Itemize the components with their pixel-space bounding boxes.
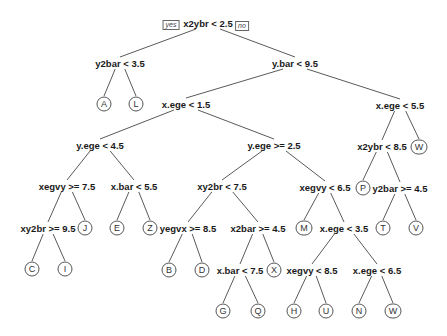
leaf-node: P: [356, 181, 371, 196]
split-node: yegvx >= 8.5: [160, 223, 217, 234]
split-node: y.ege >= 2.5: [247, 140, 300, 151]
tree-edge: [48, 192, 61, 222]
split-node: xy2br < 7.5: [197, 181, 246, 192]
tree-edge: [383, 194, 395, 220]
tree-edge: [363, 152, 376, 180]
leaf-node: V: [409, 221, 424, 236]
tree-edge: [382, 276, 393, 303]
tree-edge: [125, 69, 136, 96]
tree-edge: [331, 193, 344, 222]
split-node: xegvy < 8.5: [287, 265, 338, 276]
leaf-node: I: [58, 262, 73, 277]
split-node: x2ybr < 8.5: [357, 141, 406, 152]
split-node: y.bar < 9.5: [272, 58, 318, 69]
tree-edge: [286, 151, 325, 181]
tree-edge: [117, 192, 129, 220]
split-node: y2bar < 3.5: [95, 58, 144, 69]
no-branch-label: no: [235, 21, 249, 31]
tree-edge: [67, 151, 90, 180]
leaf-node: G: [216, 304, 231, 319]
tree-edge: [32, 234, 43, 261]
leaf-node: E: [110, 221, 125, 236]
split-node: x.ege < 1.5: [162, 99, 210, 110]
tree-edge: [169, 234, 182, 262]
tree-edge: [192, 234, 202, 262]
tree-edge: [104, 69, 115, 96]
split-node: xegvy < 6.5: [300, 182, 351, 193]
tree-edge: [220, 29, 295, 57]
leaf-node: M: [296, 221, 313, 236]
leaf-node: N: [352, 304, 367, 319]
leaf-node: T: [376, 221, 391, 236]
tree-edge: [188, 192, 212, 222]
leaf-node: J: [78, 221, 93, 236]
tree-edge: [263, 234, 274, 262]
tree-edge: [245, 276, 258, 303]
tree-edge: [120, 29, 196, 57]
leaf-node: W: [411, 140, 428, 155]
leaf-node: W: [385, 304, 402, 319]
leaf-node: L: [129, 97, 144, 112]
split-node: xy2br >= 9.5: [21, 223, 76, 234]
leaf-node: H: [287, 304, 302, 319]
tree-edge: [354, 234, 377, 264]
yes-branch-label: yes: [163, 20, 180, 30]
split-node: x2bar >= 4.5: [231, 223, 286, 234]
tree-edge: [186, 69, 283, 98]
tree-edge: [307, 69, 400, 99]
tree-edge: [139, 192, 150, 220]
leaf-node: Q: [251, 304, 266, 319]
tree-edge: [387, 152, 400, 182]
split-node: x.ege < 6.5: [353, 265, 401, 276]
tree-edge: [198, 110, 274, 139]
split-node: y2bar >= 4.5: [373, 183, 428, 194]
tree-edges: [0, 0, 447, 336]
tree-edge: [100, 110, 174, 139]
leaf-node: X: [267, 263, 282, 278]
tree-edge: [53, 234, 65, 261]
tree-edge: [222, 151, 262, 180]
tree-edge: [294, 276, 307, 303]
tree-edge: [382, 111, 395, 140]
decision-tree: yes no x2ybr < 2.5y2bar < 3.5y.bar < 9.5…: [0, 0, 447, 336]
leaf-node: A: [97, 97, 112, 112]
split-node: x2ybr < 2.5: [183, 18, 232, 29]
tree-edge: [312, 234, 334, 264]
tree-edge: [110, 151, 134, 180]
split-node: x.bar < 7.5: [217, 265, 264, 276]
tree-edge: [223, 276, 235, 303]
leaf-node: C: [25, 262, 40, 277]
split-node: y.ege < 4.5: [76, 140, 124, 151]
leaf-node: Z: [143, 221, 158, 236]
leaf-node: U: [319, 304, 334, 319]
split-node: x.ege < 3.5: [320, 223, 368, 234]
tree-edge: [406, 111, 419, 139]
tree-edge: [304, 193, 319, 220]
tree-edge: [316, 276, 326, 303]
split-node: x.bar < 5.5: [111, 181, 158, 192]
tree-edge: [233, 192, 258, 222]
split-node: x.ege < 5.5: [376, 100, 424, 111]
leaf-node: B: [162, 263, 177, 278]
tree-edge: [405, 194, 416, 220]
split-node: xegvy >= 7.5: [39, 181, 96, 192]
tree-edge: [240, 234, 253, 264]
leaf-node: D: [195, 263, 210, 278]
tree-edge: [359, 276, 372, 303]
tree-edge: [72, 192, 85, 220]
